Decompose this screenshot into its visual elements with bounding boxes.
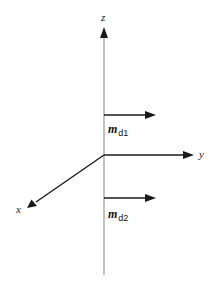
md2-subscript: d2 (118, 213, 128, 223)
z-arrowhead-icon (100, 27, 108, 38)
y-axis (104, 151, 194, 159)
x-axis (27, 155, 104, 208)
md1-subscript: d1 (118, 128, 128, 138)
z-axis (100, 27, 108, 275)
md2-symbol: m (108, 207, 117, 221)
md2-arrowhead-icon (145, 194, 156, 202)
y-arrowhead-icon (183, 151, 194, 159)
vector-md1-arrow (104, 111, 156, 119)
md1-label: md1 (108, 120, 128, 136)
vector-md2-arrow (104, 194, 156, 202)
z-axis-label: z (101, 12, 105, 23)
x-arrowhead-icon (27, 200, 37, 209)
md2-label: md2 (108, 205, 128, 221)
axes-drawing (0, 0, 223, 288)
diagram-canvas: z y x md1 md2 (0, 0, 223, 288)
y-axis-label: y (199, 149, 204, 160)
md1-symbol: m (108, 122, 117, 136)
x-axis-label: x (16, 204, 21, 215)
md1-arrowhead-icon (145, 111, 156, 119)
